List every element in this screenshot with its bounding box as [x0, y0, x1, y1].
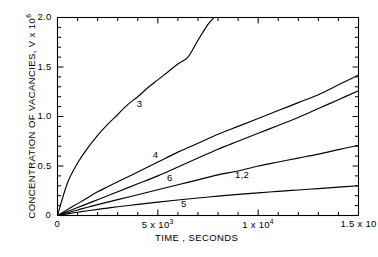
- curve-group: [58, 18, 359, 216]
- curve-label-1-2: 1,2: [235, 169, 249, 180]
- x-tick-label-text-0: 0: [55, 218, 61, 229]
- y-tick-label-1: 0.5: [38, 160, 52, 171]
- x-tick-label-text-2: 1 x 10: [242, 219, 270, 230]
- y-tick-label-4: 2.0: [38, 11, 52, 22]
- x-tick-label-3: 1.5 x 10: [341, 218, 377, 229]
- x-tick-label-exponent-2: 4: [270, 218, 274, 225]
- curve-label-3: 3: [137, 98, 143, 109]
- y-tick-label-3: 1.5: [38, 61, 52, 72]
- y-axis-title-text: CONCENTRATION OF VACANCIES, V x 10: [26, 18, 37, 219]
- curve-label-5: 5: [181, 198, 187, 209]
- y-axis-title-exponent: 6: [25, 14, 32, 18]
- x-tick-label-text-3: 1.5 x 10: [341, 218, 377, 229]
- curve-5: [58, 186, 359, 216]
- y-axis-title: CONCENTRATION OF VACANCIES, V x 106: [25, 6, 37, 226]
- x-tick-label-1: 5 x 103: [142, 218, 174, 230]
- vacancy-concentration-chart: CONCENTRATION OF VACANCIES, V x 106 TIME…: [0, 0, 378, 257]
- x-tick-label-2: 1 x 104: [242, 218, 274, 230]
- curve-1-2: [58, 145, 359, 215]
- curve-4: [58, 75, 359, 216]
- x-axis-title: TIME , SECONDS: [155, 232, 238, 243]
- plot-frame: [58, 18, 359, 216]
- y-tick-label-0: 0: [46, 209, 52, 220]
- x-tick-label-0: 0: [55, 218, 61, 229]
- curve-3: [58, 18, 215, 216]
- x-tick-label-text-1: 5 x 10: [142, 219, 170, 230]
- x-tick-label-exponent-1: 3: [170, 218, 174, 225]
- curve-label-6: 6: [167, 172, 173, 183]
- curve-label-4: 4: [153, 149, 159, 160]
- y-tick-label-2: 1.0: [38, 110, 52, 121]
